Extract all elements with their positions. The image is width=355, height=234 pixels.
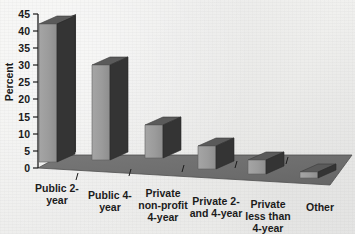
y-tick-label-25: 25 xyxy=(18,76,30,88)
y-axis: 45 40 35 30 25 20 15 10 5 0 Percent xyxy=(3,8,38,174)
chart-plot-area: 45 40 35 30 25 20 15 10 5 0 Percent xyxy=(0,0,355,234)
svg-text:Private: Private xyxy=(145,187,180,199)
y-axis-title: Percent xyxy=(3,62,15,101)
y-tick-label-45: 45 xyxy=(18,8,30,20)
svg-text:year: year xyxy=(99,201,121,213)
y-tick-label-30: 30 xyxy=(18,59,30,71)
svg-text:and 4-year: and 4-year xyxy=(190,207,243,219)
x-label-public-2-year: Public 2- year xyxy=(35,182,79,206)
svg-text:Private 2-: Private 2- xyxy=(192,195,240,207)
svg-text:less than: less than xyxy=(245,210,291,222)
bar-chart: 45 40 35 30 25 20 15 10 5 0 Percent xyxy=(0,0,355,234)
bar-public-2-year xyxy=(36,14,76,162)
x-label-private-non-profit-4-year: Private non-profit 4-year xyxy=(138,187,188,223)
y-tick-label-0: 0 xyxy=(24,162,30,174)
svg-text:Public 2-: Public 2- xyxy=(35,182,79,194)
y-tick-label-20: 20 xyxy=(18,93,30,105)
x-label-private-less-than-4-year: Private less than 4-year xyxy=(245,198,291,234)
x-label-public-4-year: Public 4- year xyxy=(88,189,132,213)
svg-text:Public 4-: Public 4- xyxy=(88,189,132,201)
svg-text:Other: Other xyxy=(306,201,334,213)
x-label-other: Other xyxy=(306,201,334,213)
x-label-private-2-and-4-year: Private 2- and 4-year xyxy=(190,195,243,219)
bar-public-4-year xyxy=(92,57,128,160)
y-tick-label-15: 15 xyxy=(18,111,30,123)
y-tick-label-35: 35 xyxy=(18,42,30,54)
svg-text:year: year xyxy=(46,194,68,206)
y-tick-label-5: 5 xyxy=(24,145,30,157)
svg-text:4-year: 4-year xyxy=(253,222,284,234)
x-axis-category-labels: Public 2- year Public 4- year Private no… xyxy=(35,182,334,234)
y-tick-label-40: 40 xyxy=(18,25,30,37)
svg-text:Private: Private xyxy=(250,198,285,210)
bar-private-non-profit-4-year xyxy=(145,117,181,158)
svg-text:non-profit: non-profit xyxy=(138,199,188,211)
svg-text:4-year: 4-year xyxy=(148,211,179,223)
y-tick-label-10: 10 xyxy=(18,128,30,140)
